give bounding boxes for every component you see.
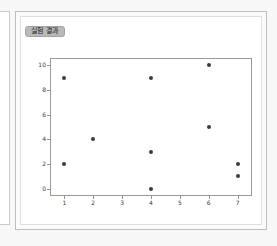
- data-point: [149, 187, 153, 191]
- x-tick-label: 4: [149, 200, 153, 206]
- y-tick-mark: [47, 65, 50, 66]
- screenshot-root: 실험 결과 0246810 1234567: [0, 0, 277, 246]
- data-point: [149, 76, 153, 80]
- results-panel-body: 실험 결과 0246810 1234567: [20, 16, 262, 225]
- x-tick-label: 2: [91, 200, 95, 206]
- data-point: [236, 174, 240, 178]
- panel-title-label: 실험 결과: [31, 28, 59, 35]
- y-tick-mark: [47, 189, 50, 190]
- results-panel: 실험 결과 0246810 1234567: [15, 11, 267, 230]
- y-tick-label: 8: [42, 87, 46, 93]
- adjacent-panel-sliver: [0, 11, 10, 225]
- x-tick-label: 6: [207, 200, 211, 206]
- y-tick-label: 4: [42, 136, 46, 142]
- y-tick-label: 10: [38, 62, 46, 68]
- y-tick-label: 0: [42, 186, 46, 192]
- y-tick-mark: [47, 164, 50, 165]
- x-tick-label: 1: [63, 200, 67, 206]
- panel-title-badge: 실험 결과: [25, 26, 65, 37]
- y-tick-label: 2: [42, 161, 46, 167]
- y-tick-mark: [47, 90, 50, 91]
- x-tick-label: 5: [178, 200, 182, 206]
- y-tick-label: 6: [42, 112, 46, 118]
- data-point: [236, 162, 240, 166]
- x-tick-label: 3: [120, 200, 124, 206]
- data-point: [207, 125, 211, 129]
- y-tick-mark: [47, 139, 50, 140]
- scatter-plot: 0246810 1234567: [50, 58, 252, 196]
- y-tick-mark: [47, 115, 50, 116]
- x-tick-label: 7: [236, 200, 240, 206]
- data-point: [149, 150, 153, 154]
